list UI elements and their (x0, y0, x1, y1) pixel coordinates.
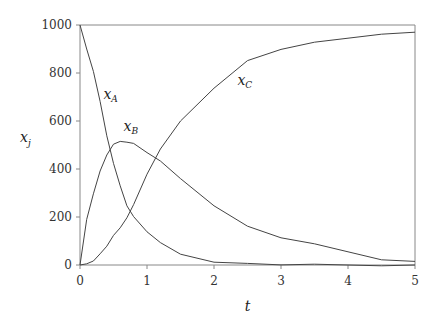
x-tick-label: 1 (143, 274, 151, 288)
x-tick-label: 5 (411, 274, 419, 288)
y-tick-label: 800 (49, 66, 72, 80)
x-tick-label: 3 (277, 274, 285, 288)
x-tick-label: 4 (344, 274, 352, 288)
y-tick-label: 400 (49, 162, 72, 176)
label-x-c: xC (237, 72, 252, 90)
series-x-b (80, 141, 415, 265)
x-tick-label: 0 (76, 274, 84, 288)
y-tick-label: 1000 (41, 18, 72, 32)
y-tick-label: 200 (49, 210, 72, 224)
line-chart: 02004006008001000012345txj xAxBxC (0, 0, 437, 322)
label-x-b: xB (124, 118, 139, 136)
label-x-a: xA (103, 86, 118, 104)
y-axis-label: xj (20, 129, 31, 148)
x-tick-label: 2 (210, 274, 218, 288)
x-axis-label: t (245, 298, 251, 314)
y-tick-label: 0 (64, 258, 72, 272)
series-x-c (80, 32, 415, 265)
data-series (80, 25, 415, 266)
y-tick-label: 600 (49, 114, 72, 128)
series-labels: xAxBxC (103, 72, 252, 136)
axes: 02004006008001000012345txj (20, 18, 419, 314)
